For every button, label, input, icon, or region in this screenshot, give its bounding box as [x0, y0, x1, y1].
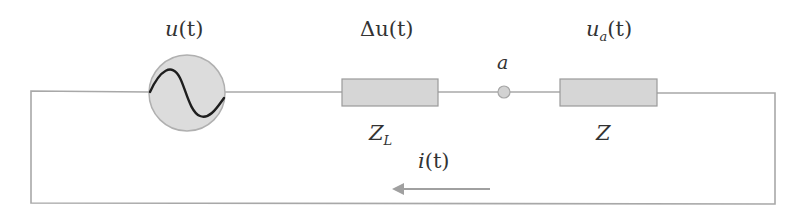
load-voltage-label: ua(t)	[586, 17, 632, 44]
node-a-label: a	[497, 51, 508, 73]
load-impedance-label: Z	[595, 121, 611, 145]
source-voltage-label: u(t)	[165, 17, 203, 41]
load-impedance-z	[560, 79, 657, 106]
line-drop-voltage-label: Δu(t)	[360, 17, 414, 41]
circuit-diagram: u(t) Δu(t) ZL a ua(t) Z i(t)	[0, 0, 803, 222]
current-label: i(t)	[418, 149, 450, 173]
current-direction-arrow-icon	[392, 183, 490, 195]
node-a	[498, 86, 510, 98]
line-impedance-zl	[342, 79, 438, 106]
ac-voltage-source	[149, 55, 225, 131]
line-impedance-label: ZL	[368, 121, 392, 148]
